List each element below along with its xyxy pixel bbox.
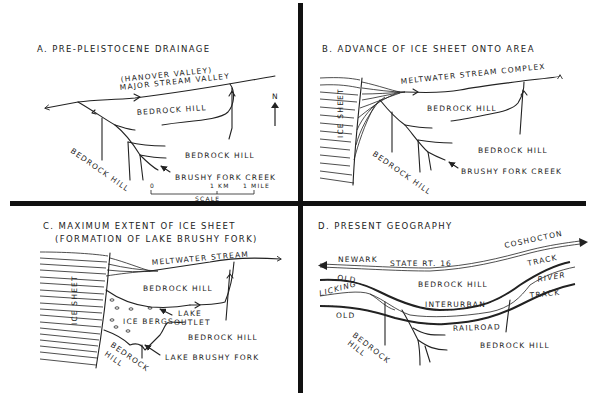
svg-text:1 MILE: 1 MILE	[243, 182, 270, 189]
label-railroad: RAILROAD	[453, 322, 501, 333]
label-brushy-fork-creek-a: BRUSHY FORK CREEK	[175, 173, 276, 182]
label-bedrock-hill-d3: BEDROCK HILL	[480, 341, 550, 350]
label-bedrock-hill-a2: BEDROCK HILL	[185, 151, 255, 160]
panel-c: C. MAXIMUM EXTENT OF ICE SHEET (FORMATIO…	[40, 221, 280, 374]
label-lake-brushy-fork: LAKE BRUSHY FORK	[165, 353, 259, 362]
svg-text:SCALE: SCALE	[195, 195, 220, 202]
vertical-divider	[298, 3, 303, 393]
label-bedrock-hill-a3: BEDROCK HILL	[69, 146, 131, 193]
ice-sheet-c: ICE SHEET	[40, 252, 158, 368]
svg-text:ICE SHEET: ICE SHEET	[336, 88, 345, 138]
panel-c-title-line2: (FORMATION OF LAKE BRUSHY FORK)	[55, 234, 258, 244]
panel-d-title: D. PRESENT GEOGRAPHY	[318, 221, 453, 231]
panel-a-title: A. PRE-PLEISTOCENE DRAINAGE	[37, 44, 211, 54]
svg-text:1 KM: 1 KM	[210, 182, 230, 189]
label-bedrock-hill-b1: BEDROCK HILL	[427, 104, 497, 113]
svg-text:0: 0	[150, 182, 155, 189]
panel-c-title-line1: C. MAXIMUM EXTENT OF ICE SHEET	[43, 221, 236, 231]
label-old-lower: OLD	[336, 311, 355, 320]
label-lake-outlet-2: OUTLET	[174, 318, 211, 327]
label-track-lower: TRACK	[528, 288, 560, 300]
label-bedrock-hill-c2: BEDROCK HILL	[188, 333, 258, 342]
icebergs	[110, 299, 152, 332]
label-bedrock-hill-b3: BEDROCK HILL	[371, 149, 433, 196]
label-coshocton: COSHOCTON	[504, 229, 564, 250]
label-meltwater-stream: MELTWATER STREAM	[151, 250, 249, 267]
label-interurban: INTERURBAN	[425, 300, 486, 309]
label-north: N	[272, 92, 279, 101]
horizontal-divider	[10, 201, 586, 206]
label-bedrock-hill-a1: BEDROCK HILL	[137, 103, 207, 117]
panel-a: A. PRE-PLEISTOCENE DRAINAGE (HANOVER VAL…	[37, 44, 279, 202]
label-bedrock-hill-b2: BEDROCK HILL	[478, 146, 548, 155]
panel-b: B. ADVANCE OF ICE SHEET ONTO AREA ICE SH…	[320, 44, 562, 197]
panel-d: D. PRESENT GEOGRAPHY COSHOCTON	[318, 221, 588, 365]
figure-canvas: A. PRE-PLEISTOCENE DRAINAGE (HANOVER VAL…	[0, 0, 590, 405]
panel-b-title: B. ADVANCE OF ICE SHEET ONTO AREA	[322, 44, 535, 54]
svg-text:ICE SHEET: ICE SHEET	[70, 275, 79, 325]
label-ice-bergs: ICE BERGS	[123, 317, 174, 326]
label-bedrock-hill-c1: BEDROCK HILL	[143, 284, 213, 293]
scale-bar: 0 1 KM 1 MILE SCALE	[150, 182, 270, 202]
label-bedrock-hill-d1: BEDROCK HILL	[418, 280, 488, 289]
label-newark: NEWARK	[338, 255, 378, 264]
label-state-rt-16: STATE RT. 16	[390, 259, 452, 268]
label-lake-outlet-1: LAKE	[178, 309, 202, 318]
label-track-upper: TRACK	[526, 253, 559, 268]
label-brushy-fork-creek-b: BRUSHY FORK CREEK	[461, 167, 562, 176]
